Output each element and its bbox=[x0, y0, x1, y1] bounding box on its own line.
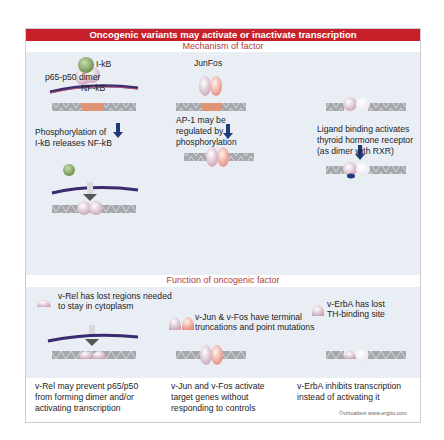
label-junfos: JunFos bbox=[194, 58, 222, 68]
result-vrel-3: activating transcription bbox=[35, 403, 121, 413]
result-vrel-2: from forming dimer and/or bbox=[35, 392, 134, 402]
caption-ap1-3: phosphorylation bbox=[176, 137, 237, 147]
section-heading-oncogenic: Function of oncogenic factor bbox=[26, 275, 420, 286]
caption-nfkb-2: I-kB releases NF-kB bbox=[35, 138, 112, 148]
result-verba-1: v-ErbA inhibits transcription bbox=[297, 381, 401, 391]
label-nfkb: NF-kB bbox=[81, 83, 105, 93]
caption-ap1-2: regulated by bbox=[176, 126, 223, 136]
mechanism-panel: I-kB p65-p50 dimer NF-kB Phosphorylation… bbox=[26, 52, 420, 275]
credit-text: ©virtualtext www.ergito.com bbox=[339, 410, 407, 416]
ikb-sphere bbox=[78, 57, 94, 73]
figure-frame: Oncogenic variants may activate or inact… bbox=[25, 28, 421, 423]
ligand-icon bbox=[347, 174, 355, 179]
note-vrel-1: v-Rel has lost regions needed bbox=[58, 291, 172, 301]
caption-tr-1: Ligand binding activates bbox=[317, 124, 409, 134]
note-verba-1: v-ErbA has lost bbox=[327, 299, 385, 309]
results-footer: v-Rel may prevent p65/p50 from forming d… bbox=[26, 378, 420, 422]
note-vjun-2: truncations and point mutations bbox=[195, 322, 314, 332]
oncogenic-panel: v-Rel has lost regions needed to stay in… bbox=[26, 287, 420, 378]
note-vrel-2: to stay in cytoplasm bbox=[58, 301, 133, 311]
result-vrel-1: v-Rel may prevent p65/p50 bbox=[35, 381, 138, 391]
caption-tr-2: thyroid hormone receptor bbox=[317, 135, 413, 145]
caption-ap1-1: AP-1 may be bbox=[176, 115, 226, 125]
figure-title: Oncogenic variants may activate or inact… bbox=[26, 29, 420, 41]
note-vjun-1: v-Jun & v-Fos have terminal bbox=[195, 312, 302, 322]
released-ikb-sphere bbox=[63, 164, 75, 176]
result-vjun-1: v-Jun and v-Fos activate bbox=[171, 381, 265, 391]
label-ikb: I-kB bbox=[96, 59, 111, 69]
note-verba-2: TH-binding site bbox=[327, 309, 385, 319]
section-heading-mechanism: Mechanism of factor bbox=[26, 41, 420, 52]
caption-nfkb-1: Phosphorylation of bbox=[35, 127, 106, 137]
result-vjun-3: responding to controls bbox=[171, 403, 256, 413]
result-verba-2: instead of activating it bbox=[297, 392, 380, 402]
result-vjun-2: target genes without bbox=[171, 392, 248, 402]
dna-binding-site bbox=[82, 103, 104, 111]
arrow-down-icon bbox=[113, 123, 123, 138]
caption-tr-3: (as dimer with RXR) bbox=[317, 146, 394, 156]
label-dimer: p65-p50 dimer bbox=[45, 72, 100, 82]
